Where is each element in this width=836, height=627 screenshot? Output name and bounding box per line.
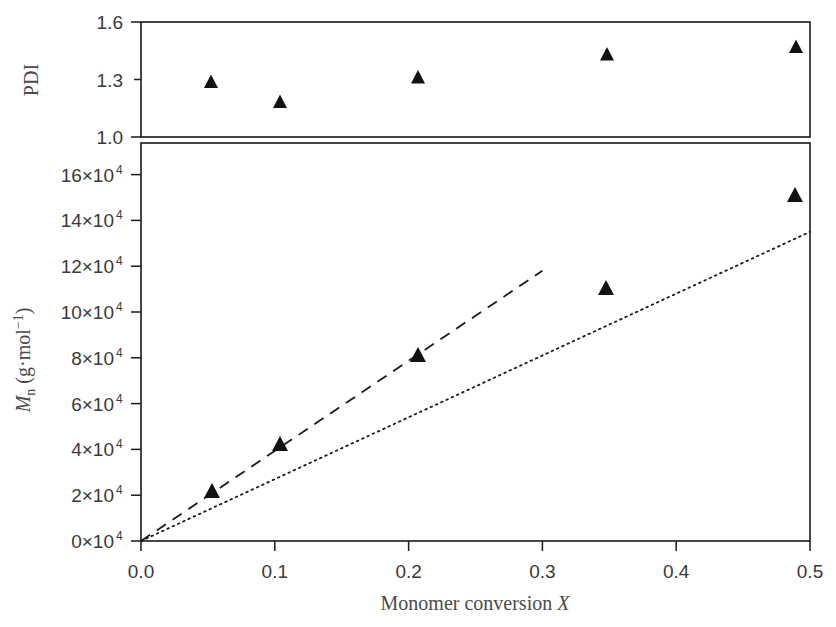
svg-text:4: 4 bbox=[116, 392, 123, 406]
mn-axis-title-M: M bbox=[12, 394, 34, 413]
mn-xticklabel-5: 0.5 bbox=[797, 561, 823, 582]
pdi-y-tick-labels: 1.6 1.3 1.0 bbox=[97, 12, 123, 148]
mn-y-tick-labels: 0×10 4 2×10 4 4×10 4 6×10 4 8×10 4 bbox=[61, 163, 123, 552]
svg-text:Mn (g·mol−1): Mn (g·mol−1) bbox=[11, 308, 38, 414]
svg-text:4: 4 bbox=[116, 300, 123, 314]
svg-text:0×10: 0×10 bbox=[71, 531, 114, 552]
mn-xticklabel-1: 0.1 bbox=[262, 561, 288, 582]
svg-text:4: 4 bbox=[116, 346, 123, 360]
mn-ticklabel-8: 8×10 4 bbox=[71, 346, 123, 369]
svg-text:6×10: 6×10 bbox=[71, 394, 114, 415]
svg-text:2×10: 2×10 bbox=[71, 485, 114, 506]
svg-text:12×10: 12×10 bbox=[61, 256, 114, 277]
pdi-panel: 1.6 1.3 1.0 PDI bbox=[20, 12, 810, 148]
mn-ticklabel-10: 10×10 4 bbox=[61, 300, 123, 323]
x-axis-title-italic: X bbox=[556, 592, 570, 614]
pdi-ticklabel-1: 1.3 bbox=[97, 70, 123, 91]
mn-x-ticks bbox=[141, 541, 810, 551]
svg-text:4: 4 bbox=[116, 163, 123, 177]
mn-ticklabel-16: 16×10 4 bbox=[61, 163, 123, 186]
mn-xticklabel-2: 0.2 bbox=[395, 561, 421, 582]
svg-text:16×10: 16×10 bbox=[61, 165, 114, 186]
svg-text:4: 4 bbox=[116, 437, 123, 451]
x-axis-title-text: Monomer conversion bbox=[381, 592, 558, 614]
mn-ticklabel-12: 12×10 4 bbox=[61, 254, 123, 277]
mn-axis-title-unit-close: ) bbox=[12, 308, 35, 315]
svg-text:4×10: 4×10 bbox=[71, 439, 114, 460]
mn-axis-title-unit-open: (g·mol bbox=[12, 329, 35, 389]
figure-page: 1.6 1.3 1.0 PDI bbox=[0, 0, 836, 627]
mn-axis-title-sub: n bbox=[23, 389, 38, 396]
mn-xticklabel-3: 0.3 bbox=[529, 561, 555, 582]
chart-canvas: 1.6 1.3 1.0 PDI bbox=[0, 0, 836, 627]
mn-xticklabel-0: 0.0 bbox=[128, 561, 154, 582]
svg-text:4: 4 bbox=[116, 254, 123, 268]
svg-text:4: 4 bbox=[116, 208, 123, 222]
pdi-axis-title: PDI bbox=[20, 64, 42, 96]
mn-ticklabel-6: 6×10 4 bbox=[71, 392, 123, 415]
mn-y-ticks bbox=[131, 175, 141, 541]
svg-text:14×10: 14×10 bbox=[61, 210, 114, 231]
mn-ticklabel-14: 14×10 4 bbox=[61, 208, 123, 231]
mn-panel: 0×10 4 2×10 4 4×10 4 6×10 4 8×10 4 bbox=[11, 143, 823, 614]
mn-ticklabel-0: 0×10 4 bbox=[71, 529, 123, 552]
pdi-ticklabel-2: 1.0 bbox=[97, 127, 123, 148]
svg-text:8×10: 8×10 bbox=[71, 348, 114, 369]
mn-plot-frame bbox=[141, 143, 810, 541]
pdi-y-ticks bbox=[131, 22, 141, 137]
mn-xticklabel-4: 0.4 bbox=[663, 561, 690, 582]
mn-axis-title: Mn (g·mol−1) bbox=[11, 308, 38, 414]
svg-text:10×10: 10×10 bbox=[61, 302, 114, 323]
mn-ticklabel-4: 4×10 4 bbox=[71, 437, 123, 460]
svg-text:4: 4 bbox=[116, 529, 123, 543]
pdi-plot-frame bbox=[141, 22, 810, 137]
mn-ticklabel-2: 2×10 4 bbox=[71, 483, 123, 506]
mn-x-tick-labels: 0.0 0.1 0.2 0.3 0.4 0.5 bbox=[128, 561, 823, 582]
mn-axis-title-unit-sup: −1 bbox=[11, 314, 26, 329]
svg-text:4: 4 bbox=[116, 483, 123, 497]
pdi-ticklabel-0: 1.6 bbox=[97, 12, 123, 33]
x-axis-title: Monomer conversion X bbox=[381, 592, 571, 614]
